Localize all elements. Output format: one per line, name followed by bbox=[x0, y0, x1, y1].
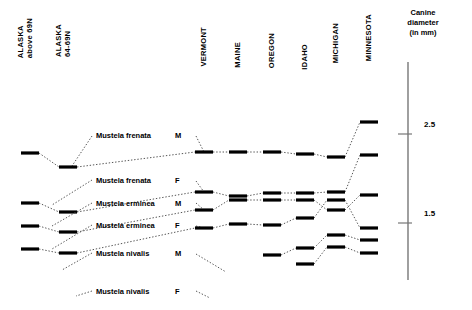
series-connector bbox=[314, 192, 327, 193]
column-header-idaho: IDAHO bbox=[301, 44, 310, 70]
series-connector bbox=[314, 235, 327, 248]
series-connector bbox=[213, 192, 229, 196]
series-label-mustela-frenata-male: Mustela frenata bbox=[96, 131, 151, 140]
series-connector bbox=[281, 218, 296, 225]
column-header-vermont: VERMONT bbox=[200, 27, 209, 67]
column-header-alaska-above-69n: ALASKA above 69N bbox=[17, 18, 34, 58]
series-connector bbox=[345, 195, 360, 210]
series-leader-line bbox=[76, 291, 92, 296]
series-sex-mustela-erminea-female: F bbox=[175, 221, 180, 230]
series-sex-mustela-erminea-male: M bbox=[175, 199, 181, 208]
series-label-mustela-erminea-male: Mustela erminea bbox=[96, 199, 155, 208]
series-leader-line bbox=[196, 136, 204, 152]
series-leader-line bbox=[62, 253, 92, 270]
series-label-mustela-nivalis-male: Mustela nivalis bbox=[96, 249, 149, 258]
column-header-maine: MAINE bbox=[234, 42, 243, 68]
series-connector bbox=[77, 152, 195, 167]
series-connector bbox=[314, 154, 327, 157]
series-connector bbox=[314, 200, 327, 210]
series-connector bbox=[281, 248, 296, 255]
series-sex-mustela-nivalis-male: M bbox=[175, 249, 181, 258]
series-connector bbox=[213, 200, 229, 210]
series-sex-mustela-frenata-female: F bbox=[175, 176, 180, 185]
column-header-alaska-64-69n: ALASKA 64-69N bbox=[55, 24, 72, 57]
series-leader-line bbox=[196, 181, 204, 192]
series-connector bbox=[314, 247, 327, 264]
series-connector bbox=[247, 193, 263, 196]
series-label-mustela-frenata-female: Mustela frenata bbox=[96, 176, 151, 185]
series-connector bbox=[314, 200, 327, 218]
axis-title: Canine diameter (in mm) bbox=[388, 8, 458, 38]
series-connector bbox=[345, 122, 360, 157]
series-leader-line bbox=[52, 203, 92, 226]
series-connector bbox=[345, 235, 360, 240]
series-leader-line bbox=[196, 291, 210, 298]
series-label-mustela-nivalis-female: Mustela nivalis bbox=[96, 287, 149, 296]
column-header-oregon: OREGON bbox=[268, 33, 277, 68]
series-leader-line bbox=[52, 180, 92, 205]
series-label-mustela-erminea-female: Mustela erminea bbox=[96, 221, 155, 230]
series-sex-mustela-frenata-male: M bbox=[175, 131, 181, 140]
series-connector bbox=[345, 155, 360, 192]
series-leader-line bbox=[196, 254, 226, 272]
series-connector bbox=[39, 226, 59, 232]
series-connector bbox=[281, 152, 296, 154]
series-sex-mustela-nivalis-female: F bbox=[175, 287, 180, 296]
series-connector bbox=[345, 200, 360, 228]
axis-tick-label: 1.5 bbox=[424, 209, 435, 218]
canine-diameter-figure: ALASKA above 69NALASKA 64-69NVERMONTMAIN… bbox=[0, 0, 472, 310]
series-connector bbox=[39, 153, 59, 167]
series-leader-line bbox=[72, 136, 92, 166]
axis-tick-label: 2.5 bbox=[424, 120, 435, 129]
series-connector bbox=[39, 203, 59, 212]
column-header-minnesota: MINNESOTA bbox=[365, 14, 374, 61]
column-header-michigan: MICHIGAN bbox=[332, 23, 341, 63]
series-connector bbox=[213, 224, 229, 228]
series-leader-line bbox=[52, 225, 92, 249]
series-connector bbox=[247, 224, 263, 225]
series-connector bbox=[345, 247, 360, 253]
series-connector bbox=[39, 249, 59, 253]
